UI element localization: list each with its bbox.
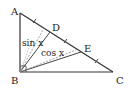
label-cos-x: cos x bbox=[41, 48, 64, 58]
geometry-diagram: A B C D E sin x cos x bbox=[0, 0, 131, 100]
label-d: D bbox=[52, 22, 60, 33]
label-c: C bbox=[116, 75, 124, 86]
label-e: E bbox=[84, 43, 91, 54]
label-b: B bbox=[11, 75, 18, 86]
label-sin-x: sin x bbox=[22, 38, 43, 48]
label-a: A bbox=[10, 6, 19, 17]
